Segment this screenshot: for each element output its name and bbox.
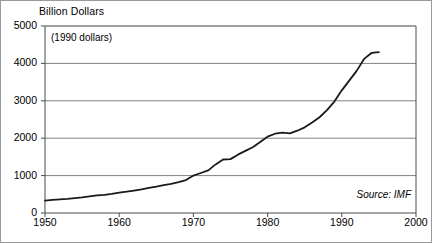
y-tick-label-2000: 2000 (3, 131, 37, 143)
chart-figure: Billion Dollars (1990 dollars) Source: I… (0, 0, 432, 243)
axis-frame (45, 26, 416, 213)
x-tick-label-1970: 1970 (173, 216, 213, 228)
data-series-group (45, 52, 379, 200)
x-tick-label-1960: 1960 (99, 216, 139, 228)
chart-title: Billion Dollars (39, 5, 104, 17)
plot-area (45, 26, 416, 213)
plot-svg (45, 26, 416, 213)
y-tick-label-3000: 3000 (3, 94, 37, 106)
x-tick-label-1990: 1990 (322, 216, 362, 228)
x-tick-label-2000: 2000 (396, 216, 432, 228)
x-tick-label-1980: 1980 (248, 216, 288, 228)
y-tick-label-4000: 4000 (3, 56, 37, 68)
series-line-0 (45, 52, 379, 200)
y-tick-marks (41, 26, 45, 213)
gridlines (45, 26, 416, 176)
x-tick-label-1950: 1950 (25, 216, 65, 228)
y-tick-label-1000: 1000 (3, 169, 37, 181)
y-tick-label-5000: 5000 (3, 19, 37, 31)
